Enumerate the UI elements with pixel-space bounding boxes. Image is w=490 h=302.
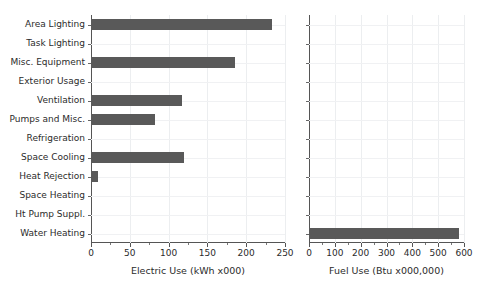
xaxis-tick [91, 243, 92, 247]
xaxis-minor-tick [227, 243, 228, 245]
yaxis-tick [88, 139, 91, 140]
xaxis-tick [207, 243, 208, 247]
bar-row [309, 95, 464, 106]
bar [91, 19, 272, 30]
xaxis-tick-label: 500 [430, 249, 447, 258]
panel-fuel-use: 0100200300400500600 Fuel Use (Btu x000,0… [292, 0, 490, 302]
yaxis-tick [88, 158, 91, 159]
xaxis-tick-label: 100 [326, 249, 343, 258]
xaxis-minor-tick [110, 243, 111, 245]
xaxis-tick [309, 243, 310, 247]
bar-row [91, 95, 285, 106]
xaxis-minor-tick [425, 243, 426, 245]
xaxis-tick-label: 300 [378, 249, 395, 258]
bar-row [309, 171, 464, 182]
bar-row [309, 152, 464, 163]
yaxis-tick [306, 63, 309, 64]
category-label: Ht Pump Suppl. [0, 210, 85, 219]
xaxis-minor-tick [399, 243, 400, 245]
category-label: Ventilation [0, 96, 85, 105]
xaxis-tick-label: 200 [238, 249, 255, 258]
bar-row [91, 209, 285, 220]
bar [91, 95, 182, 106]
category-label: Misc. Equipment [0, 58, 85, 67]
category-label: Water Heating [0, 229, 85, 238]
bar-row [91, 76, 285, 87]
yaxis-tick [88, 44, 91, 45]
yaxis-tick [306, 101, 309, 102]
plot-area-electric: 050100150200250 [91, 15, 285, 243]
xaxis-tick-label: 0 [88, 249, 94, 258]
bar-row [309, 114, 464, 125]
panel-electric-use: 050100150200250 Area LightingTask Lighti… [0, 0, 292, 302]
yaxis-tick [306, 82, 309, 83]
xaxis-tick-label: 0 [306, 249, 312, 258]
yaxis-tick [88, 25, 91, 26]
yaxis-tick [306, 158, 309, 159]
xaxis-minor-tick [374, 243, 375, 245]
figure-energy-end-use: 050100150200250 Area LightingTask Lighti… [0, 0, 490, 302]
xaxis-minor-tick [348, 243, 349, 245]
category-label: Space Heating [0, 191, 85, 200]
xaxis-tick-label: 50 [124, 249, 135, 258]
bar-row [309, 228, 464, 239]
xaxis-tick-label: 150 [199, 249, 216, 258]
yaxis-tick [306, 120, 309, 121]
xaxis-tick-label: 600 [455, 249, 472, 258]
bar-row [91, 152, 285, 163]
bar-row [309, 57, 464, 68]
yaxis-tick [306, 139, 309, 140]
yaxis-tick [88, 120, 91, 121]
gridline-vertical [464, 15, 465, 243]
xaxis-tick-label: 200 [352, 249, 369, 258]
bar [91, 152, 184, 163]
bar [91, 114, 155, 125]
xaxis-tick-label: 100 [160, 249, 177, 258]
bar-row [309, 209, 464, 220]
yaxis-tick [88, 215, 91, 216]
bar-row [309, 38, 464, 49]
bar [91, 171, 98, 182]
yaxis-tick [88, 177, 91, 178]
yaxis-tick [88, 196, 91, 197]
category-label: Space Cooling [0, 153, 85, 162]
gridline-vertical [285, 15, 286, 243]
xaxis-minor-tick [149, 243, 150, 245]
yaxis-tick [306, 234, 309, 235]
yaxis-tick [306, 196, 309, 197]
bar-row [309, 19, 464, 30]
xaxis-tick [438, 243, 439, 247]
bar-row [91, 190, 285, 201]
bar [91, 57, 235, 68]
xaxis-tick [246, 243, 247, 247]
xaxis-tick [130, 243, 131, 247]
bar-row [91, 19, 285, 30]
xaxis-minor-tick [451, 243, 452, 245]
bar-row [309, 76, 464, 87]
xaxis-tick [285, 243, 286, 247]
yaxis-tick [306, 44, 309, 45]
yaxis-tick [306, 25, 309, 26]
plot-area-fuel: 0100200300400500600 [309, 15, 464, 243]
bar-row [91, 114, 285, 125]
category-label: Exterior Usage [0, 77, 85, 86]
bar-row [91, 171, 285, 182]
xaxis-tick-label: 400 [404, 249, 421, 258]
bar-row [309, 133, 464, 144]
xaxis-minor-tick [322, 243, 323, 245]
yaxis-tick [306, 177, 309, 178]
category-label: Pumps and Misc. [0, 115, 85, 124]
xaxis-tick [169, 243, 170, 247]
bar-row [91, 38, 285, 49]
yaxis-tick [88, 101, 91, 102]
xaxis-tick [335, 243, 336, 247]
yaxis-tick [88, 82, 91, 83]
bar-row [91, 133, 285, 144]
category-label: Task Lighting [0, 39, 85, 48]
yaxis-tick [88, 63, 91, 64]
bar-row [91, 57, 285, 68]
xaxis-minor-tick [188, 243, 189, 245]
yaxis-tick [88, 234, 91, 235]
yaxis-tick [306, 215, 309, 216]
bar-row [91, 228, 285, 239]
